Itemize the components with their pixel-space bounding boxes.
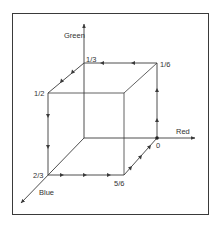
vertex-label-2-3: 2/3 bbox=[33, 171, 43, 180]
edge-1-3-to-1-2 bbox=[48, 63, 84, 93]
blue-axis-label: Blue bbox=[39, 188, 54, 197]
green-axis-label: Green bbox=[64, 31, 85, 40]
vertex-label-5-6: 5/6 bbox=[114, 179, 124, 188]
rgb-cube-diagram: Green Red Blue 0 1/6 1/3 1/2 2/3 5/6 bbox=[0, 0, 222, 229]
vertex-label-1-2: 1/2 bbox=[34, 89, 44, 98]
origin-dot bbox=[155, 136, 159, 140]
red-axis-label: Red bbox=[176, 127, 190, 136]
vertex-label-0: 0 bbox=[156, 141, 160, 150]
vertex-label-1-6: 1/6 bbox=[160, 60, 170, 69]
vertex-label-1-3: 1/3 bbox=[86, 55, 96, 64]
